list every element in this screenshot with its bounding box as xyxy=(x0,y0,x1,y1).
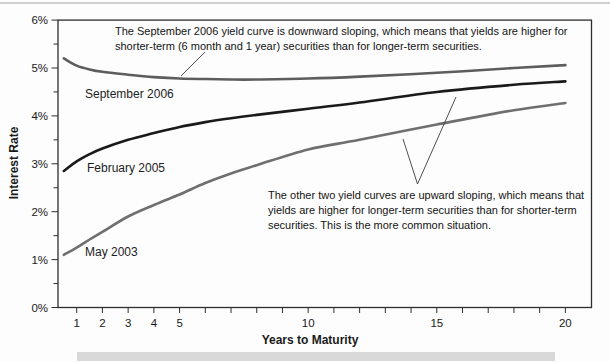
y-axis-tick-label: 0% xyxy=(31,302,48,314)
x-axis-tick-label: 10 xyxy=(302,317,315,329)
x-axis-title: Years to Maturity xyxy=(262,333,359,347)
series-label-february-2005: February 2005 xyxy=(87,161,165,175)
annotation-leader-upward-sloping xyxy=(403,97,456,184)
y-axis-tick-label: 4% xyxy=(31,110,48,122)
curve-september-2006 xyxy=(64,58,566,79)
series-label-september-2006: September 2006 xyxy=(85,87,174,101)
page-bottom-band xyxy=(77,352,555,361)
x-axis-tick-label: 15 xyxy=(430,317,443,329)
x-axis-tick-label: 1 xyxy=(73,317,79,329)
x-axis-tick-label: 2 xyxy=(99,317,105,329)
x-axis-tick-label: 4 xyxy=(151,317,158,329)
y-axis-title: Interest Rate xyxy=(7,127,21,200)
y-axis-tick-label: 5% xyxy=(31,62,48,74)
y-axis-tick-label: 1% xyxy=(31,254,48,266)
x-axis-tick-label: 5 xyxy=(176,317,182,329)
x-axis-tick-label: 20 xyxy=(559,317,572,329)
annotation-downward-sloping: The September 2006 yield curve is downwa… xyxy=(115,24,587,54)
annotation-upward-sloping: The other two yield curves are upward sl… xyxy=(268,188,590,233)
yield-curve-chart: 123451015200%1%2%3%4%5%6% xyxy=(0,0,610,362)
annotation-leader-downward-sloping xyxy=(181,52,205,76)
x-axis-tick-label: 3 xyxy=(125,317,131,329)
series-label-may-2003: May 2003 xyxy=(85,245,138,259)
y-axis-tick-label: 6% xyxy=(31,14,48,26)
y-axis-tick-label: 3% xyxy=(31,158,48,170)
y-axis-tick-label: 2% xyxy=(31,206,48,218)
yield-curve-figure: 123451015200%1%2%3%4%5%6% Interest Rate … xyxy=(0,0,610,362)
